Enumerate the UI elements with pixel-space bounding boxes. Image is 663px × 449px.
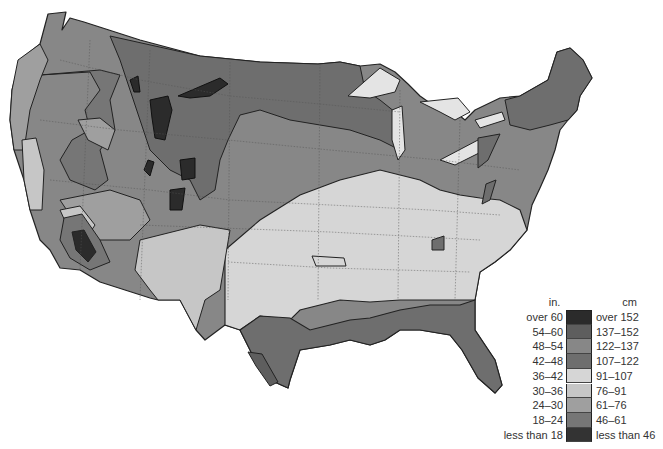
legend-cm: 91–107 bbox=[596, 369, 633, 383]
legend-swatch bbox=[566, 384, 592, 399]
legend-row: 36–42 91–107 bbox=[507, 369, 663, 384]
legend-row: less than 18 less than 46 bbox=[507, 428, 663, 443]
legend-row: 24–30 61–76 bbox=[507, 398, 663, 413]
legend-inches: 54–60 bbox=[532, 325, 563, 339]
legend-inches: 24–30 bbox=[532, 398, 563, 412]
legend-row: 18–24 46–61 bbox=[507, 413, 663, 428]
legend-swatch bbox=[566, 354, 592, 369]
legend-row: 30–36 76–91 bbox=[507, 384, 663, 399]
legend-cm: less than 46 bbox=[596, 428, 655, 442]
legend-swatch bbox=[566, 413, 592, 428]
legend-inches: 18–24 bbox=[532, 413, 563, 427]
legend-inches: 36–42 bbox=[532, 369, 563, 383]
legend-row: 48–54 122–137 bbox=[507, 339, 663, 354]
legend-unit-inches: in. bbox=[507, 296, 582, 308]
legend-inches: 48–54 bbox=[532, 339, 563, 353]
legend-unit-cm: cm bbox=[602, 296, 657, 308]
zone-plains-island bbox=[312, 256, 346, 266]
legend-cm: 137–152 bbox=[596, 325, 639, 339]
legend-swatch bbox=[566, 339, 592, 354]
legend-inches: 30–36 bbox=[532, 384, 563, 398]
legend-swatch bbox=[566, 369, 592, 384]
legend-cm: 107–122 bbox=[596, 354, 639, 368]
legend-inches: less than 18 bbox=[504, 428, 563, 442]
legend-inches: over 60 bbox=[526, 310, 563, 324]
zone-northeast bbox=[505, 48, 592, 130]
legend-row: 54–60 137–152 bbox=[507, 325, 663, 340]
legend-cm: 76–91 bbox=[596, 384, 627, 398]
legend-swatch bbox=[566, 398, 592, 413]
legend-cm: 61–76 bbox=[596, 398, 627, 412]
legend-swatch bbox=[566, 310, 592, 325]
legend-swatch bbox=[566, 428, 592, 443]
legend-row: over 60 over 152 bbox=[507, 310, 663, 325]
legend-swatch bbox=[566, 325, 592, 340]
legend: in. cm over 60 over 152 54–60 137–152 48… bbox=[507, 296, 663, 446]
legend-cm: 122–137 bbox=[596, 339, 639, 353]
legend-cm: over 152 bbox=[596, 310, 639, 324]
legend-cm: 46–61 bbox=[596, 413, 627, 427]
legend-row: 42–48 107–122 bbox=[507, 354, 663, 369]
legend-inches: 42–48 bbox=[532, 354, 563, 368]
